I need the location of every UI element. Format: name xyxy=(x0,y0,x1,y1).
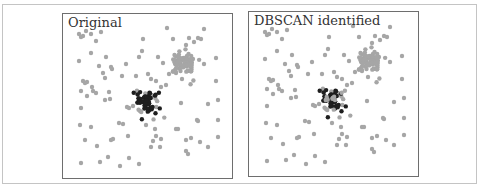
data-point xyxy=(383,56,387,60)
data-point xyxy=(384,138,388,142)
data-point xyxy=(117,121,121,125)
data-point xyxy=(172,53,176,57)
data-point xyxy=(146,72,150,76)
data-point xyxy=(94,39,98,43)
data-point xyxy=(216,118,220,122)
data-point xyxy=(94,91,98,95)
data-point xyxy=(139,110,143,114)
data-point xyxy=(269,136,273,140)
data-point xyxy=(161,61,165,65)
data-point xyxy=(202,27,206,31)
data-point xyxy=(98,160,102,164)
data-point xyxy=(111,137,115,141)
data-point xyxy=(402,116,406,120)
data-point xyxy=(106,155,110,159)
data-point xyxy=(184,138,188,142)
data-point xyxy=(121,122,125,126)
data-point xyxy=(337,137,341,141)
data-point xyxy=(202,62,206,66)
data-point xyxy=(289,74,293,78)
data-point xyxy=(285,28,289,32)
data-point xyxy=(171,37,175,41)
data-point xyxy=(138,100,142,104)
data-point xyxy=(187,36,191,40)
data-point xyxy=(77,59,81,63)
data-point xyxy=(374,80,378,84)
data-point xyxy=(323,53,327,57)
data-point xyxy=(216,98,220,102)
scatter-plot-dbscan xyxy=(249,12,419,177)
data-point xyxy=(339,109,343,113)
data-point xyxy=(89,32,93,36)
data-point xyxy=(357,35,361,39)
data-point xyxy=(343,89,347,93)
data-point xyxy=(179,101,183,105)
data-point xyxy=(353,70,357,74)
data-point xyxy=(199,37,203,41)
data-point xyxy=(265,104,269,108)
data-point xyxy=(186,52,190,56)
data-point xyxy=(140,117,144,121)
data-point xyxy=(366,75,370,79)
data-point xyxy=(340,132,344,136)
data-point xyxy=(83,138,87,142)
data-point xyxy=(197,58,201,62)
data-point xyxy=(124,62,128,66)
data-point xyxy=(131,104,135,108)
data-point xyxy=(276,83,280,87)
data-point xyxy=(134,74,138,78)
data-point xyxy=(157,91,161,95)
data-point xyxy=(332,107,336,111)
data-point xyxy=(158,145,162,149)
data-point xyxy=(108,97,112,101)
data-point xyxy=(271,92,275,96)
data-point xyxy=(374,55,378,59)
data-point xyxy=(265,87,269,91)
data-point xyxy=(335,143,339,147)
data-point xyxy=(357,55,361,59)
data-point xyxy=(149,77,153,81)
data-point xyxy=(187,63,191,67)
data-point xyxy=(370,136,374,140)
data-point xyxy=(287,69,291,73)
data-point xyxy=(186,152,190,156)
panel-dbscan: DBSCAN identified xyxy=(248,11,419,177)
data-point xyxy=(317,89,321,93)
data-point xyxy=(306,72,310,76)
data-point xyxy=(271,78,275,82)
data-point xyxy=(324,98,328,102)
data-point xyxy=(377,76,381,80)
data-point xyxy=(79,106,83,110)
data-point xyxy=(195,118,199,122)
data-point xyxy=(97,64,101,68)
data-point xyxy=(191,78,195,82)
data-point xyxy=(85,94,89,98)
data-point xyxy=(120,74,124,78)
data-point xyxy=(183,47,187,51)
data-point xyxy=(104,55,108,59)
data-point xyxy=(342,53,346,57)
data-point xyxy=(180,63,184,67)
data-point xyxy=(334,89,338,93)
data-point xyxy=(216,135,220,139)
data-point xyxy=(388,25,392,29)
data-point xyxy=(159,85,163,89)
data-point xyxy=(357,67,361,71)
data-point xyxy=(144,123,148,127)
data-point xyxy=(206,145,210,149)
data-point xyxy=(275,30,279,34)
data-point xyxy=(151,117,155,121)
data-point xyxy=(303,119,307,123)
data-point xyxy=(150,105,154,109)
data-point xyxy=(330,97,334,101)
data-point xyxy=(330,121,334,125)
data-point xyxy=(304,162,308,166)
data-point xyxy=(140,49,144,53)
data-point xyxy=(327,35,331,39)
data-point xyxy=(171,69,175,73)
data-point xyxy=(392,143,396,147)
data-point xyxy=(167,72,171,76)
data-point xyxy=(184,43,188,47)
data-point xyxy=(214,56,218,60)
data-point xyxy=(402,133,406,137)
